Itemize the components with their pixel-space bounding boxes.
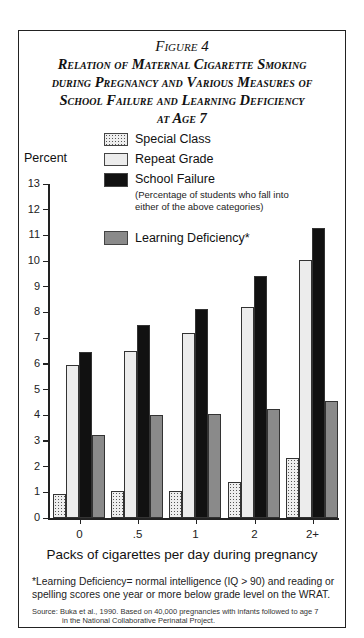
legend-label-school-failure: School Failure [135, 172, 215, 186]
y-tick-label: 8 [24, 305, 40, 317]
footnote: *Learning Deficiency= normal intelligenc… [32, 575, 342, 601]
bar-school-failure [137, 325, 150, 518]
y-tick-label: 10 [24, 254, 40, 266]
y-tick-label: 3 [24, 434, 40, 446]
y-axis-label: Percent [24, 151, 67, 165]
y-tick [43, 261, 49, 262]
bar-special-class [53, 494, 66, 518]
y-tick [43, 209, 49, 210]
legend-school-failure-note: (Percentage of students who fall into ei… [135, 189, 295, 212]
y-tick [43, 312, 49, 313]
y-tick-label: 6 [24, 357, 40, 369]
source-line-2: in the National Collaborative Perinatal … [32, 616, 347, 625]
y-tick-label: 1 [24, 485, 40, 497]
bar-repeat-grade [66, 365, 79, 518]
y-tick [43, 363, 49, 364]
bar-special-class [228, 482, 241, 518]
x-tick [255, 518, 256, 524]
x-tick-label: 2 [240, 528, 270, 540]
source-note: Source: Buka et al., 1990. Based on 40,0… [32, 607, 347, 625]
x-tick-label: 2+ [298, 528, 328, 540]
y-tick-label: 12 [24, 203, 40, 215]
title-line-1: Relation of Maternal Cigarette Smoking [18, 55, 346, 73]
bar-repeat-grade [182, 333, 195, 518]
y-tick [43, 286, 49, 287]
title-line-3: School Failure and Learning Deficiency [18, 91, 346, 109]
x-tick-label: 1 [181, 528, 211, 540]
y-tick [43, 338, 49, 339]
y-tick [43, 492, 49, 493]
bar-school-failure [254, 276, 267, 518]
legend-label-special-class: Special Class [135, 132, 211, 146]
y-tick [43, 235, 49, 236]
bar-special-class [169, 491, 182, 518]
x-axis-label: Packs of cigarettes per day during pregn… [18, 547, 346, 562]
y-tick-label: 2 [24, 460, 40, 472]
y-tick-label: 4 [24, 408, 40, 420]
title-line-4: at Age 7 [18, 109, 346, 127]
legend-label-repeat-grade: Repeat Grade [135, 152, 214, 166]
x-tick [196, 518, 197, 524]
y-tick-label: 7 [24, 331, 40, 343]
y-tick [43, 518, 49, 519]
bar-learning-deficiency [267, 409, 280, 518]
bar-school-failure [312, 228, 325, 518]
y-tick-label: 11 [24, 228, 40, 240]
x-tick [138, 518, 139, 524]
legend-swatch-special-class [104, 133, 128, 146]
x-tick-label: 0 [65, 528, 95, 540]
y-tick-label: 9 [24, 280, 40, 292]
bar-repeat-grade [241, 307, 254, 518]
bar-school-failure [79, 352, 92, 518]
bar-learning-deficiency [92, 435, 105, 519]
bar-repeat-grade [124, 351, 137, 518]
figure-title: Figure 4 Relation of Maternal Cigarette … [18, 37, 346, 127]
legend-label-learning-deficiency: Learning Deficiency* [135, 231, 250, 245]
y-tick [43, 466, 49, 467]
source-line-1: Source: Buka et al., 1990. Based on 40,0… [32, 607, 318, 616]
y-tick-label: 0 [24, 511, 40, 523]
legend-swatch-repeat-grade [104, 153, 128, 166]
figure-label: Figure 4 [18, 37, 346, 55]
bar-special-class [111, 491, 124, 518]
y-tick [43, 440, 49, 441]
bar-learning-deficiency [150, 415, 163, 518]
bar-learning-deficiency [325, 401, 338, 518]
y-tick [43, 415, 49, 416]
title-line-2: during Pregnancy and Various Measures of [18, 73, 346, 91]
x-tick [313, 518, 314, 524]
bar-school-failure [195, 309, 208, 518]
x-tick-label: .5 [123, 528, 153, 540]
bar-learning-deficiency [208, 414, 221, 518]
y-tick [43, 184, 49, 185]
bar-special-class [286, 458, 299, 518]
x-axis-line [48, 518, 339, 520]
x-tick [80, 518, 81, 524]
legend-swatch-school-failure [104, 173, 128, 187]
y-tick [43, 389, 49, 390]
y-tick-label: 13 [24, 177, 40, 189]
bar-repeat-grade [299, 260, 312, 518]
y-tick-label: 5 [24, 383, 40, 395]
legend-swatch-learning-deficiency [104, 231, 128, 245]
